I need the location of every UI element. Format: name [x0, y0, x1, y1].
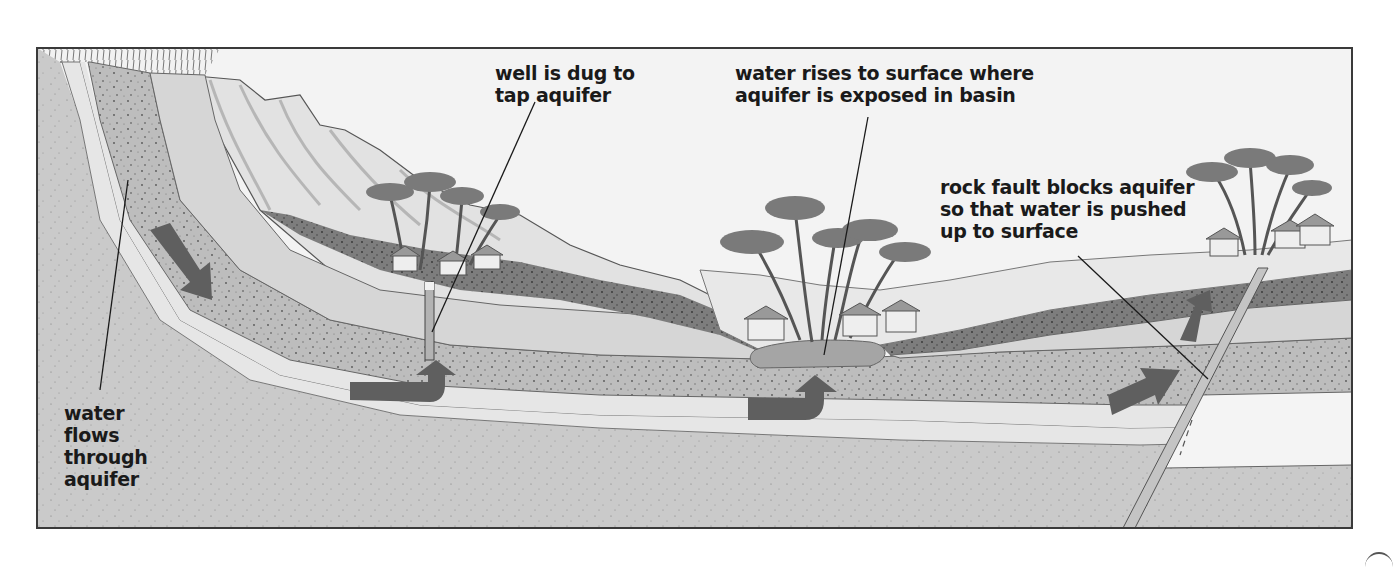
label-flow: water flows through aquifer [64, 402, 148, 490]
well-shaft [425, 282, 434, 360]
label-fault: rock fault blocks aquifer so that water … [940, 176, 1194, 242]
label-basin: water rises to surface where aquifer is … [735, 62, 1034, 106]
page-corner-mark [1365, 552, 1393, 568]
label-well: well is dug to tap aquifer [495, 62, 635, 106]
